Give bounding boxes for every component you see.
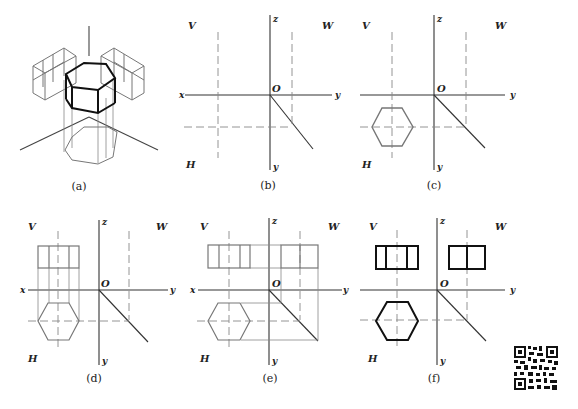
label-w: W: [322, 20, 335, 31]
miter-line: [270, 95, 313, 149]
label-h: H: [185, 159, 196, 170]
caption-c: (c): [427, 179, 442, 192]
label-x: x: [189, 285, 196, 295]
label-y-right: y: [169, 285, 176, 295]
label-v: V: [200, 221, 209, 232]
label-v: V: [369, 221, 378, 232]
front-view-rectangles: [38, 246, 79, 268]
label-origin: O: [272, 83, 281, 94]
label-y-right: y: [509, 285, 516, 295]
label-x: x: [19, 285, 26, 295]
label-y-down: y: [272, 162, 279, 172]
three-view-projection-figure: (a) V W H x y y z O (b) V W H y y z O (c…: [0, 0, 578, 409]
label-h: H: [361, 159, 372, 170]
panel-f-final-three-views: V W H y y z O (f): [360, 216, 516, 385]
label-origin: O: [437, 83, 446, 94]
label-y-right: y: [509, 90, 516, 100]
label-y-down: y: [436, 162, 443, 172]
label-y-down: y: [271, 356, 278, 366]
label-w: W: [156, 221, 169, 232]
panel-d-front-view: V W H x y y z O (d): [19, 217, 176, 385]
label-h: H: [27, 353, 38, 364]
panel-b-axes-setup: V W H x y y z O (b): [178, 14, 341, 192]
hexagon-top-view: [38, 303, 79, 340]
panel-e-side-view-construction: V W H x y y z O (e): [189, 216, 349, 385]
caption-a: (a): [71, 180, 86, 193]
label-h: H: [367, 353, 378, 364]
label-v: V: [28, 221, 37, 232]
label-w: W: [495, 221, 508, 232]
label-y-down: y: [101, 356, 108, 366]
label-z: z: [272, 14, 279, 24]
label-x: x: [178, 90, 185, 100]
label-v: V: [188, 20, 197, 31]
label-z: z: [271, 216, 278, 226]
caption-b: (b): [260, 179, 276, 192]
label-y-down: y: [439, 356, 446, 366]
side-view-rectangles: [449, 246, 485, 269]
label-v: V: [362, 20, 371, 31]
caption-e: (e): [262, 372, 277, 385]
side-view-rectangles: [281, 245, 318, 268]
label-z: z: [436, 14, 443, 24]
label-origin: O: [101, 278, 110, 289]
label-h: H: [199, 353, 210, 364]
panel-a-isometric-view: (a): [20, 26, 158, 193]
label-z: z: [101, 217, 108, 227]
qr-code-icon: [513, 345, 559, 391]
label-w: W: [495, 20, 508, 31]
panel-c-top-view: V W H y y z O (c): [360, 14, 516, 192]
label-z: z: [439, 216, 446, 226]
label-origin: O: [440, 278, 449, 289]
label-y-right: y: [334, 90, 341, 100]
label-y-right: y: [342, 285, 349, 295]
label-w: W: [328, 221, 341, 232]
caption-d: (d): [86, 372, 102, 385]
label-origin: O: [272, 278, 281, 289]
caption-f: (f): [428, 372, 441, 385]
